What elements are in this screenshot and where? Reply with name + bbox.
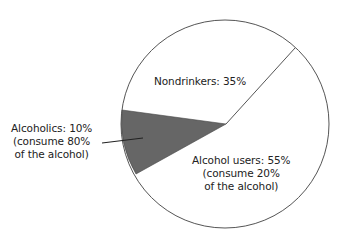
label-alcohol-users-line3: of the alcohol) [192,180,290,193]
label-alcoholics-line1: Alcoholics: 10% [11,122,92,135]
pie-chart [0,0,341,242]
label-nondrinkers-text: Nondrinkers: 35% [154,75,246,88]
label-alcoholics-line2: (consume 80% [11,135,92,148]
label-alcohol-users: Alcohol users: 55% (consume 20% of the a… [192,154,290,193]
label-nondrinkers: Nondrinkers: 35% [154,75,246,88]
label-alcoholics: Alcoholics: 10% (consume 80% of the alco… [11,122,92,161]
label-alcohol-users-line2: (consume 20% [192,167,290,180]
label-alcohol-users-line1: Alcohol users: 55% [192,154,290,167]
label-alcoholics-line3: of the alcohol) [11,148,92,161]
